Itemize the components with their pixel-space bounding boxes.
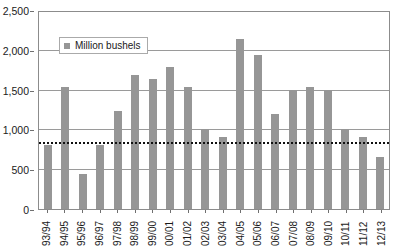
- bar: [61, 87, 69, 209]
- x-axis-tick: 03/04: [214, 212, 232, 246]
- bar: [79, 174, 87, 209]
- bar-slot: [232, 12, 250, 209]
- x-axis-tick: 96/97: [91, 212, 109, 246]
- bar: [359, 137, 367, 209]
- bar-chart: 05001,0001,5002,0002,500 Million bushels…: [0, 0, 407, 246]
- x-axis-tick: 10/11: [337, 212, 355, 246]
- x-axis-tick: 09/10: [320, 212, 338, 246]
- x-axis-tick-mark: [135, 210, 136, 213]
- x-axis-tick-label: 03/04: [217, 216, 228, 246]
- x-axis-tick: 01/02: [179, 212, 197, 246]
- bar: [166, 67, 174, 209]
- bar-slot: [284, 12, 302, 209]
- x-axis-tick-label: 93/94: [41, 216, 52, 246]
- x-axis-tick-mark: [258, 210, 259, 213]
- y-axis-tick-label: 500: [11, 164, 29, 176]
- x-axis-tick-label: 04/05: [235, 216, 246, 246]
- bar: [376, 157, 384, 209]
- y-axis-tick-mark: [30, 130, 34, 131]
- y-axis-tick-mark: [30, 210, 34, 211]
- bar: [254, 55, 262, 209]
- x-axis-tick-label: 12/13: [376, 216, 387, 246]
- y-axis-tick-mark: [30, 91, 34, 92]
- x-axis-tick-label: 98/99: [129, 216, 140, 246]
- x-axis-tick: 06/07: [267, 212, 285, 246]
- x-axis-tick-mark: [188, 210, 189, 213]
- chart-legend: Million bushels: [59, 37, 148, 54]
- x-axis: 93/9494/9595/9696/9797/9898/9999/0000/01…: [38, 212, 390, 246]
- x-axis-tick: 95/96: [73, 212, 91, 246]
- x-axis-tick-mark: [276, 210, 277, 213]
- x-axis-tick: 02/03: [196, 212, 214, 246]
- x-axis-tick-label: 96/97: [94, 216, 105, 246]
- x-axis-tick: 93/94: [38, 212, 56, 246]
- x-axis-tick-mark: [240, 210, 241, 213]
- plot-area: Million bushels: [38, 11, 390, 210]
- legend-label: Million bushels: [75, 40, 141, 51]
- x-axis-tick-label: 06/07: [270, 216, 281, 246]
- y-axis-tick-mark: [30, 170, 34, 171]
- x-axis-tick-mark: [117, 210, 118, 213]
- x-axis-tick: 08/09: [302, 212, 320, 246]
- x-axis-tick-label: 95/96: [76, 216, 87, 246]
- x-axis-tick-mark: [381, 210, 382, 213]
- x-axis-tick-mark: [152, 210, 153, 213]
- x-axis-tick: 00/01: [161, 212, 179, 246]
- x-axis-tick-label: 08/09: [305, 216, 316, 246]
- bar-slot: [197, 12, 215, 209]
- bar: [184, 87, 192, 209]
- x-axis-tick-mark: [170, 210, 171, 213]
- legend-marker-icon: [64, 43, 70, 49]
- bar: [271, 114, 279, 209]
- bar: [96, 145, 104, 209]
- bar-slot: [337, 12, 355, 209]
- x-axis-tick-label: 09/10: [323, 216, 334, 246]
- x-axis-tick: 04/05: [232, 212, 250, 246]
- x-axis-tick: 99/00: [144, 212, 162, 246]
- x-axis-tick: 07/08: [284, 212, 302, 246]
- x-axis-tick-mark: [100, 210, 101, 213]
- bar-slot: [162, 12, 180, 209]
- x-axis-tick-mark: [363, 210, 364, 213]
- y-axis-tick-label: 2,500: [3, 5, 29, 17]
- bar-slot: [267, 12, 285, 209]
- bar-slot: [214, 12, 232, 209]
- y-axis-tick-label: 1,000: [3, 124, 29, 136]
- x-axis-tick-mark: [47, 210, 48, 213]
- x-axis-tick-label: 02/03: [200, 216, 211, 246]
- x-axis-tick-mark: [82, 210, 83, 213]
- x-axis-tick: 94/95: [56, 212, 74, 246]
- x-axis-tick-label: 99/00: [147, 216, 158, 246]
- x-axis-tick-label: 00/01: [164, 216, 175, 246]
- y-axis-tick-mark: [30, 51, 34, 52]
- x-axis-tick-mark: [293, 210, 294, 213]
- bar-slot: [249, 12, 267, 209]
- y-axis-tick-label: 0: [23, 204, 29, 216]
- bar: [44, 145, 52, 209]
- x-axis-tick: 12/13: [372, 212, 390, 246]
- bar: [236, 39, 244, 209]
- x-axis-tick-label: 10/11: [340, 216, 351, 246]
- y-axis-tick-label: 1,500: [3, 85, 29, 97]
- bar: [219, 137, 227, 209]
- x-axis-tick-label: 01/02: [182, 216, 193, 246]
- x-axis-tick-label: 11/12: [358, 216, 369, 246]
- bar-slot: [302, 12, 320, 209]
- reference-line: [39, 142, 389, 144]
- bar-slot: [372, 12, 390, 209]
- x-axis-tick-mark: [205, 210, 206, 213]
- chart-title-cropped: [0, 0, 407, 7]
- x-axis-tick-mark: [328, 210, 329, 213]
- x-axis-tick-label: 97/98: [112, 216, 123, 246]
- bar: [306, 87, 314, 209]
- y-axis-tick-mark: [30, 11, 34, 12]
- x-axis-tick: 97/98: [108, 212, 126, 246]
- x-axis-tick: 11/12: [355, 212, 373, 246]
- x-axis-tick-label: 05/06: [252, 216, 263, 246]
- bar: [289, 90, 297, 209]
- bar: [149, 79, 157, 209]
- x-axis-tick-label: 94/95: [59, 216, 70, 246]
- x-axis-tick-mark: [64, 210, 65, 213]
- x-axis-tick-mark: [346, 210, 347, 213]
- bar-slot: [39, 12, 57, 209]
